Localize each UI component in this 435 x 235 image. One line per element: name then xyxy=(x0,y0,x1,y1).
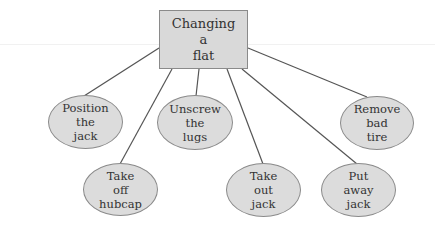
node-line: jack xyxy=(252,197,276,211)
node-line: tire xyxy=(367,130,388,144)
root-line-1: Changing xyxy=(172,16,236,32)
node-line: jack xyxy=(347,197,371,211)
node-put-away-jack: Put away jack xyxy=(321,163,396,217)
node-line: the xyxy=(186,116,205,130)
node-position-jack: Position the jack xyxy=(48,95,123,149)
node-line: Take xyxy=(107,169,134,183)
edge-remove xyxy=(248,48,367,97)
root-node: Changing a flat xyxy=(159,10,248,69)
node-line: jack xyxy=(74,129,98,143)
node-unscrew-lugs: Unscrew the lugs xyxy=(157,95,233,150)
node-line: Take xyxy=(250,169,277,183)
node-line: hubcap xyxy=(99,197,142,211)
edge-putaway xyxy=(242,69,357,164)
node-take-off-hubcap: Take off hubcap xyxy=(83,163,158,216)
diagram-canvas: Changing a flat Position the jack Take o… xyxy=(0,0,435,235)
node-line: Unscrew xyxy=(169,102,221,116)
node-remove-bad-tire: Remove bad tire xyxy=(340,96,414,150)
node-line: out xyxy=(254,183,273,197)
node-take-out-jack: Take out jack xyxy=(226,163,301,217)
node-line: Position xyxy=(62,101,108,115)
node-line: lugs xyxy=(183,130,207,144)
node-line: Remove xyxy=(354,102,401,116)
edge-position xyxy=(84,48,159,96)
node-line: Put xyxy=(349,169,369,183)
root-line-2: a xyxy=(200,32,208,48)
node-line: bad xyxy=(366,116,388,130)
node-line: the xyxy=(76,115,95,129)
edge-unscrew xyxy=(196,69,199,96)
edge-takeout xyxy=(227,69,263,164)
node-line: off xyxy=(113,183,128,197)
node-line: away xyxy=(343,183,373,197)
root-line-3: flat xyxy=(193,48,215,64)
